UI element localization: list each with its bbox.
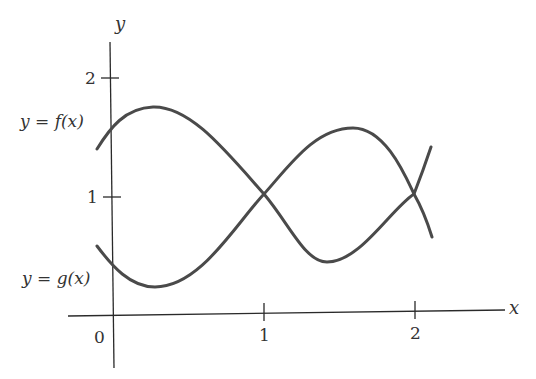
function-graph [0, 0, 536, 379]
curve-f-label: y = f(x) [20, 111, 84, 131]
x-tick-label-1: 1 [259, 325, 270, 345]
y-axis-label: y [115, 13, 125, 34]
origin-label: 0 [94, 327, 105, 347]
curve-g [97, 128, 431, 287]
x-axis [68, 310, 505, 316]
curve-g-label: y = g(x) [22, 268, 90, 288]
y-axis [110, 42, 114, 368]
x-axis-label: x [509, 297, 519, 318]
curve-f [97, 107, 432, 262]
y-tick-label-1: 1 [87, 187, 98, 207]
x-tick-label-2: 2 [410, 323, 421, 343]
y-tick-label-2: 2 [85, 68, 96, 88]
